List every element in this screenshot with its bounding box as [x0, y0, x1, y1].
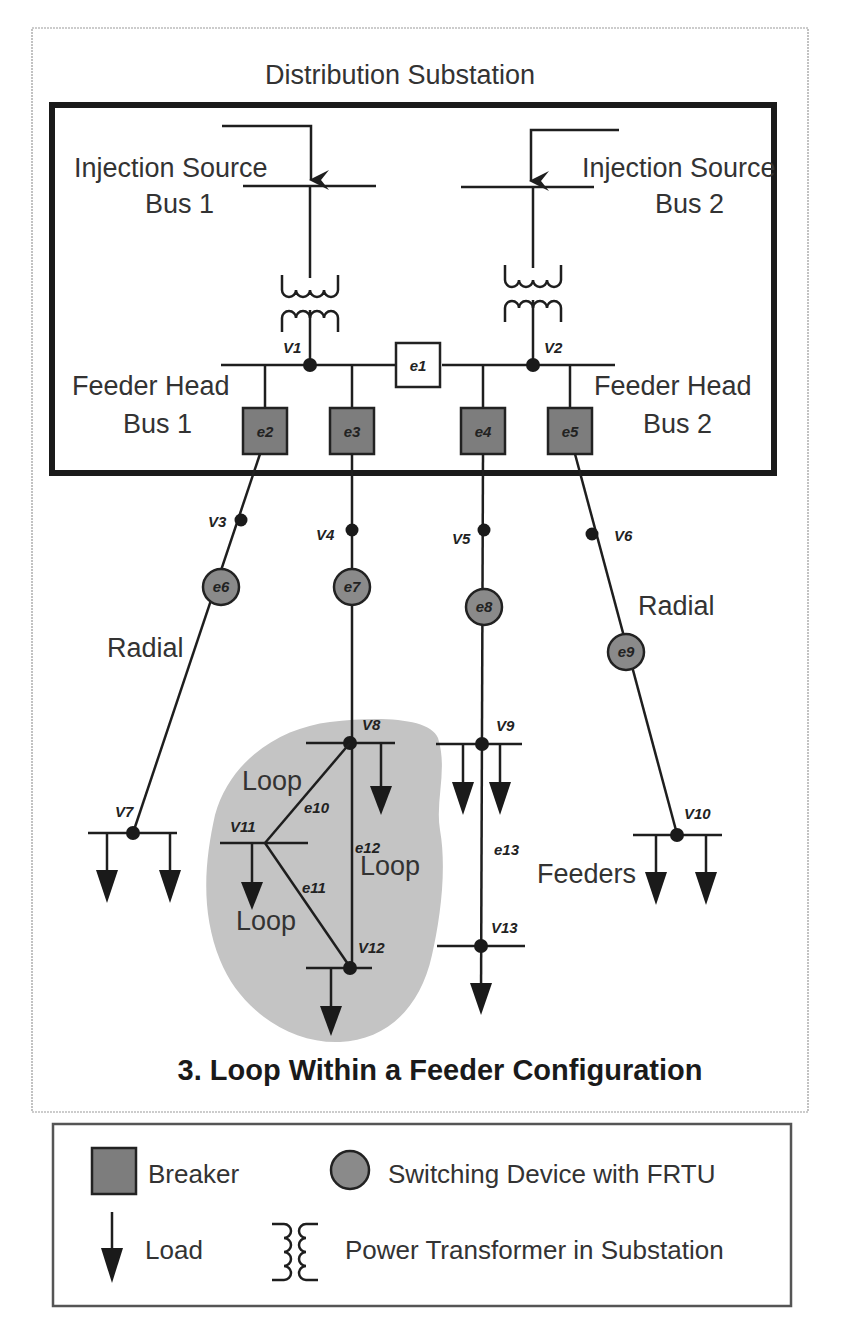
svg-text:e13: e13 [494, 841, 520, 858]
svg-text:V9: V9 [496, 717, 515, 734]
tie-breaker-e1: e1 [396, 343, 440, 387]
breaker-e5: e5 [548, 408, 592, 454]
v2-label: V2 [544, 339, 563, 356]
injection-source-bus-1: Injection Source Bus 1 [74, 126, 376, 278]
svg-text:V4: V4 [316, 526, 335, 543]
svg-text:Feeders: Feeders [537, 859, 636, 889]
node-v1 [303, 358, 317, 372]
breaker-e3: e3 [330, 408, 374, 454]
svg-text:Loop: Loop [236, 906, 296, 936]
svg-text:e10: e10 [304, 799, 330, 816]
svg-text:e1: e1 [410, 357, 427, 374]
svg-text:V8: V8 [362, 716, 381, 733]
node-v5 [478, 524, 491, 537]
figure-caption: 3. Loop Within a Feeder Configuration [178, 1054, 703, 1086]
node-v10 [670, 828, 684, 842]
v1-label: V1 [283, 339, 301, 356]
node-v7 [126, 826, 140, 840]
svg-text:V6: V6 [614, 527, 633, 544]
svg-text:e11: e11 [302, 879, 326, 896]
svg-text:e9: e9 [618, 643, 635, 660]
node-v4 [346, 524, 359, 537]
svg-text:e6: e6 [213, 578, 230, 595]
node-v13 [474, 939, 488, 953]
svg-text:V11: V11 [230, 818, 256, 835]
svg-text:e7: e7 [344, 578, 361, 595]
svg-text:V10: V10 [684, 805, 711, 822]
breaker-e2: e2 [243, 408, 287, 454]
breaker-e4: e4 [461, 408, 505, 454]
injection-source-2-label: Injection Source [582, 153, 776, 183]
feeder-head-2-label: Feeder Head [594, 371, 752, 401]
svg-text:V5: V5 [452, 530, 471, 547]
feeder-4-radial: V6 e9 Radial V10 Feeders [537, 454, 722, 905]
feeder-3: V5 e8 V9 e13 V13 [436, 454, 525, 1015]
svg-text:V3: V3 [208, 513, 227, 530]
legend: Breaker Switching Device with FRTU Load … [53, 1124, 791, 1306]
substation-title: Distribution Substation [265, 60, 535, 90]
injection-source-2-bus: Bus 2 [655, 189, 724, 219]
legend-breaker-icon [92, 1148, 136, 1194]
svg-text:V7: V7 [115, 803, 134, 820]
node-v6 [586, 528, 599, 541]
svg-text:Loop: Loop [360, 851, 420, 881]
legend-transformer-label: Power Transformer in Substation [345, 1235, 724, 1265]
svg-text:V12: V12 [358, 939, 385, 956]
svg-text:e8: e8 [476, 598, 493, 615]
loop-within-feeder-diagram: Distribution Substation Injection Source… [0, 0, 859, 1332]
feeder-head-1-bus: Bus 1 [123, 409, 192, 439]
node-v9 [475, 737, 489, 751]
legend-breaker-label: Breaker [148, 1159, 239, 1189]
svg-text:e4: e4 [475, 423, 492, 440]
injection-source-1-bus: Bus 1 [145, 189, 214, 219]
legend-transformer-icon [272, 1224, 318, 1280]
legend-switch-label: Switching Device with FRTU [388, 1159, 716, 1189]
svg-text:Loop: Loop [242, 766, 302, 796]
legend-load-label: Load [145, 1235, 203, 1265]
legend-switch-icon [331, 1151, 369, 1189]
svg-text:e5: e5 [562, 423, 579, 440]
svg-text:e3: e3 [344, 423, 361, 440]
svg-text:e2: e2 [257, 423, 274, 440]
feeder-head-1-label: Feeder Head [72, 371, 230, 401]
injection-source-bus-2: Injection Source Bus 2 [461, 130, 776, 268]
node-v3 [235, 514, 248, 527]
svg-text:V13: V13 [491, 919, 518, 936]
injection-source-1-label: Injection Source [74, 153, 268, 183]
node-v2 [526, 358, 540, 372]
svg-text:Radial: Radial [107, 633, 184, 663]
svg-text:Radial: Radial [638, 591, 715, 621]
feeder-head-2-bus: Bus 2 [643, 409, 712, 439]
node-v12 [343, 961, 357, 975]
